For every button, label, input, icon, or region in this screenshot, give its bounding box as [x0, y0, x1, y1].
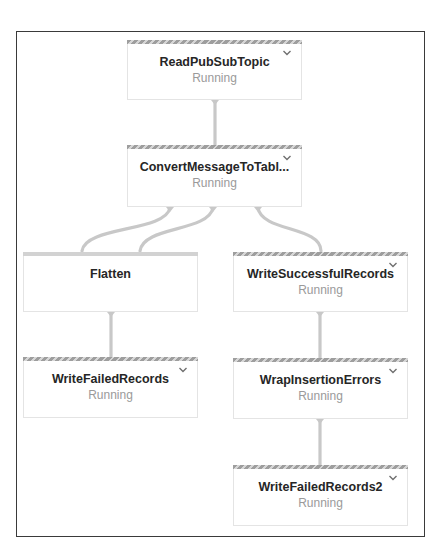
node-status: Running	[24, 388, 197, 402]
running-indicator-bar	[233, 358, 408, 362]
node-status: Running	[234, 496, 407, 510]
node-title: WriteSuccessfulRecords	[234, 267, 407, 281]
edge-cap	[211, 100, 219, 105]
edge-cap	[316, 419, 324, 424]
edge-cap	[254, 207, 262, 212]
node-status: Running	[234, 389, 407, 403]
chevron-down-icon[interactable]	[388, 261, 398, 269]
node-title: WriteFailedRecords2	[234, 480, 407, 494]
running-indicator-bar	[127, 40, 302, 44]
edge-cap	[107, 312, 115, 317]
node-title: ConvertMessageToTabl...	[128, 160, 301, 174]
running-indicator-bar	[23, 357, 198, 361]
node-title: Flatten	[24, 267, 197, 281]
node-status: Running	[128, 176, 301, 190]
chevron-down-icon[interactable]	[282, 154, 292, 162]
chevron-down-icon[interactable]	[178, 366, 188, 374]
node-title: WrapInsertionErrors	[234, 373, 407, 387]
node-write-failed-records[interactable]: WriteFailedRecords Running	[23, 357, 198, 418]
node-convert-message-to-table[interactable]: ConvertMessageToTabl... Running	[127, 145, 302, 207]
chevron-down-icon[interactable]	[388, 367, 398, 375]
node-top-bar	[23, 252, 198, 256]
running-indicator-bar	[233, 465, 408, 469]
node-status: Running	[234, 283, 407, 297]
node-read-pubsub-topic[interactable]: ReadPubSubTopic Running	[127, 40, 302, 100]
chevron-down-icon[interactable]	[282, 49, 292, 57]
node-wrap-insertion-errors[interactable]: WrapInsertionErrors Running	[233, 358, 408, 419]
chevron-down-icon[interactable]	[388, 474, 398, 482]
node-status: Running	[128, 71, 301, 85]
node-title: ReadPubSubTopic	[128, 55, 301, 69]
running-indicator-bar	[233, 252, 408, 256]
node-write-failed-records-2[interactable]: WriteFailedRecords2 Running	[233, 465, 408, 526]
node-write-successful-records[interactable]: WriteSuccessfulRecords Running	[233, 252, 408, 312]
edge-cap	[316, 312, 324, 317]
edge-convert-to-flatten-b	[140, 208, 213, 251]
edge-convert-to-writesuccess	[258, 208, 321, 251]
edge-convert-to-flatten-a	[82, 208, 170, 251]
node-flatten[interactable]: Flatten	[23, 252, 198, 312]
node-title: WriteFailedRecords	[24, 372, 197, 386]
running-indicator-bar	[127, 145, 302, 149]
